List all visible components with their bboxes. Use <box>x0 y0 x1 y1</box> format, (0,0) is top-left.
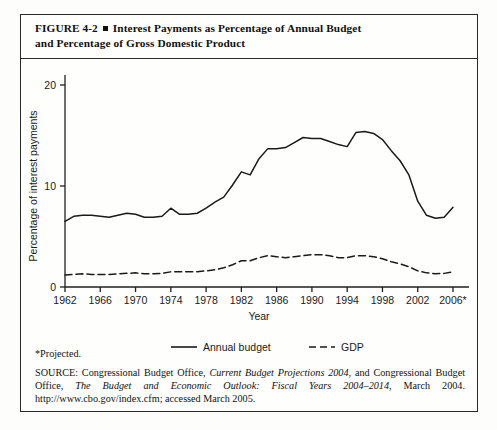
figure-title-row2: and Percentage of Gross Domestic Product <box>35 36 465 51</box>
x-tick-label: 1966 <box>89 294 113 306</box>
x-tick-label: 1994 <box>336 294 360 306</box>
series-line-annual-budget <box>65 131 453 221</box>
figure-box: FIGURE 4-2Interest Payments as Percentag… <box>20 14 478 412</box>
x-tick-label: 1974 <box>159 294 183 306</box>
figure-page: FIGURE 4-2Interest Payments as Percentag… <box>0 0 497 430</box>
y-tick-label: 10 <box>44 180 56 192</box>
figure-number: FIGURE 4-2 <box>35 22 98 34</box>
y-tick-label: 20 <box>44 79 56 91</box>
x-tick-label: 1962 <box>53 294 77 306</box>
source-italic-2: The Budget and Economic Outlook: Fiscal … <box>75 380 389 391</box>
x-axis-title: Year <box>248 310 270 322</box>
figure-title-text-1: Interest Payments as Percentage of Annua… <box>113 22 362 34</box>
square-bullet-icon <box>103 26 108 31</box>
x-tick-label: 1998 <box>371 294 395 306</box>
x-tick-label: 1970 <box>124 294 148 306</box>
figure-title-row1: FIGURE 4-2Interest Payments as Percentag… <box>35 21 465 36</box>
source-note: SOURCE: Congressional Budget Office, Cur… <box>35 366 465 406</box>
x-tick-label: 1986 <box>265 294 289 306</box>
x-tick-label: 1990 <box>300 294 324 306</box>
x-tick-label: 1982 <box>230 294 254 306</box>
x-tick-label: 2002 <box>406 294 430 306</box>
series-line-gdp <box>65 255 453 275</box>
source-italic-1: Current Budget Projections 2004 <box>209 367 348 378</box>
y-axis-title: Percentage of interest payments <box>27 110 39 261</box>
figure-notes: *Projected. SOURCE: Congressional Budget… <box>35 347 465 406</box>
source-prefix: SOURCE: Congressional Budget Office, <box>35 367 209 378</box>
x-tick-label: 1978 <box>194 294 218 306</box>
x-tick-label: 2006* <box>439 294 466 306</box>
y-tick-label: 0 <box>50 281 56 293</box>
figure-title: FIGURE 4-2Interest Payments as Percentag… <box>21 15 477 59</box>
projected-footnote: *Projected. <box>35 347 465 360</box>
